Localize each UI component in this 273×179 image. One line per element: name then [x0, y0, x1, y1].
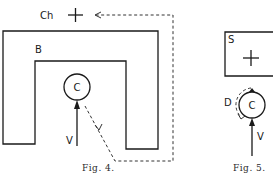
- arrow-up-icon: [249, 118, 255, 126]
- dashed-path: [85, 15, 173, 161]
- velocity-label: V: [66, 135, 73, 146]
- crosshair-label: Ch: [40, 10, 53, 21]
- crosshair-icon: [243, 50, 259, 66]
- dashed-path-arrow-icon: [95, 124, 102, 130]
- barrier-u-shape: [3, 31, 158, 149]
- velocity-label: V: [257, 131, 264, 142]
- figure-5: S C D V Fig. 5.: [224, 32, 273, 173]
- figure-caption: Fig. 5.: [233, 163, 266, 173]
- circle-label: C: [249, 100, 256, 111]
- circle-label: C: [74, 82, 81, 93]
- arrow-up-icon: [74, 100, 80, 109]
- figure-caption: Fig. 4.: [82, 163, 115, 173]
- diagram-canvas: Ch B C V Fig. 4. S C: [0, 0, 273, 179]
- figure-4: Ch B C V Fig. 4.: [3, 8, 173, 173]
- barrier-label: B: [35, 44, 42, 55]
- crosshair-icon: [68, 8, 83, 22]
- screen-label: S: [228, 34, 234, 45]
- deflection-label: D: [224, 97, 232, 108]
